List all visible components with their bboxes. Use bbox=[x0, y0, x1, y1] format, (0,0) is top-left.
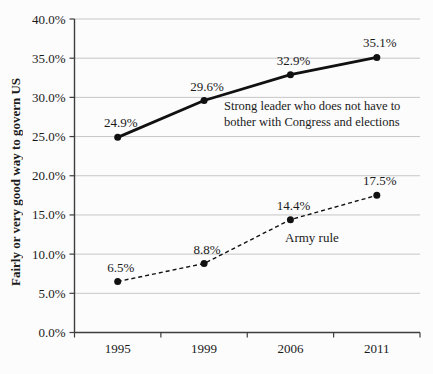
data-point-label: 6.5% bbox=[107, 260, 134, 275]
data-point-marker bbox=[373, 54, 380, 61]
y-tick-label: 30.0% bbox=[32, 90, 66, 105]
line-chart: 0.0%5.0%10.0%15.0%20.0%25.0%30.0%35.0%40… bbox=[0, 0, 433, 374]
y-axis-title: Fairly or very good way to govern US bbox=[5, 0, 27, 364]
data-point-marker bbox=[373, 192, 380, 199]
y-tick-label: 10.0% bbox=[32, 247, 66, 262]
data-point-label: 24.9% bbox=[104, 115, 138, 130]
data-point-label: 14.4% bbox=[277, 198, 311, 213]
y-tick-label: 40.0% bbox=[32, 12, 66, 27]
data-point-marker bbox=[114, 278, 121, 285]
y-tick-label: 5.0% bbox=[38, 286, 65, 301]
annotation-line: Strong leader who does not have to bbox=[224, 99, 400, 115]
data-point-label: 29.6% bbox=[190, 79, 224, 94]
data-point-marker bbox=[201, 260, 208, 267]
data-point-label: 8.8% bbox=[194, 242, 221, 257]
x-tick-label: 1995 bbox=[105, 341, 131, 356]
data-point-label: 17.5% bbox=[363, 173, 397, 188]
y-tick-label: 20.0% bbox=[32, 168, 66, 183]
y-tick-label: 35.0% bbox=[32, 51, 66, 66]
data-point-label: 32.9% bbox=[277, 53, 311, 68]
data-point-marker bbox=[114, 134, 121, 141]
x-tick-label: 2006 bbox=[277, 341, 304, 356]
data-point-label: 35.1% bbox=[363, 35, 397, 50]
y-tick-label: 0.0% bbox=[38, 325, 65, 340]
data-point-marker bbox=[287, 71, 294, 78]
annotation-line: bother with Congress and elections bbox=[224, 115, 400, 131]
y-tick-label: 15.0% bbox=[32, 207, 66, 222]
x-tick-label: 2011 bbox=[364, 341, 390, 356]
data-point-marker bbox=[201, 97, 208, 104]
chart-figure: 0.0%5.0%10.0%15.0%20.0%25.0%30.0%35.0%40… bbox=[0, 0, 433, 374]
x-tick-label: 1999 bbox=[191, 341, 217, 356]
annotation-army-rule: Army rule bbox=[285, 230, 339, 246]
annotation-strong-leader: Strong leader who does not have to bothe… bbox=[224, 99, 400, 130]
y-tick-label: 25.0% bbox=[32, 129, 66, 144]
data-point-marker bbox=[287, 216, 294, 223]
